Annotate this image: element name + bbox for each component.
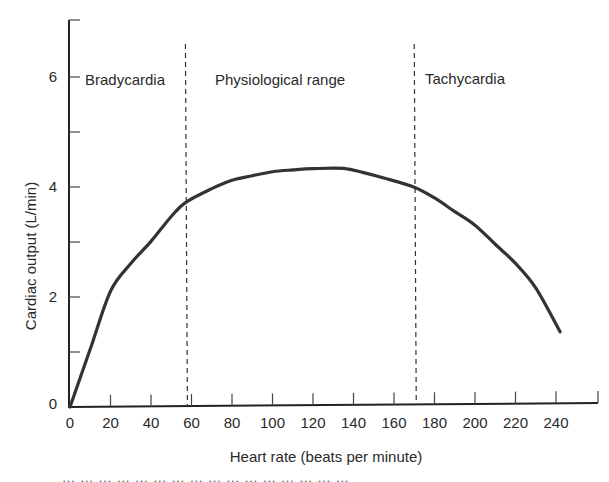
x-tick-label: 180	[422, 414, 447, 431]
x-tick-label: 120	[300, 414, 325, 431]
y-ticks: 0246	[49, 68, 80, 412]
y-tick-label: 0	[49, 395, 57, 412]
x-ticks: 020406080100120140160180200220240	[66, 391, 569, 431]
x-tick-label: 240	[543, 414, 568, 431]
x-tick-label: 160	[381, 414, 406, 431]
cardiac-output-chart: 0246 020406080100120140160180200220240 B…	[0, 0, 609, 482]
x-tick-label: 60	[183, 414, 200, 431]
x-tick-label: 100	[260, 414, 285, 431]
y-tick-label: 2	[49, 288, 57, 305]
y-tick-label: 6	[49, 68, 57, 85]
x-tick-label: 20	[102, 414, 119, 431]
y-tick-label: 4	[49, 178, 57, 195]
x-tick-label: 220	[503, 414, 528, 431]
bradycardia-boundary-line	[185, 44, 187, 406]
x-axis-title: Heart rate (beats per minute)	[230, 448, 423, 465]
figure-caption-fragment: … … … … … … … … … … … … … … … …	[62, 470, 609, 482]
region-label-tachycardia: Tachycardia	[425, 70, 506, 87]
y-axis-title: Cardiac output (L/min)	[22, 182, 39, 330]
x-tick-label: 40	[143, 414, 160, 431]
x-tick-label: 200	[462, 414, 487, 431]
x-tick-label: 80	[224, 414, 241, 431]
x-axis	[69, 403, 598, 407]
region-label-bradycardia: Bradycardia	[85, 71, 166, 88]
region-label-physiological: Physiological range	[215, 71, 345, 88]
cardiac-output-curve	[70, 168, 560, 407]
x-tick-label: 140	[341, 414, 366, 431]
x-tick-label: 0	[66, 414, 74, 431]
tachycardia-boundary-line	[414, 44, 416, 404]
